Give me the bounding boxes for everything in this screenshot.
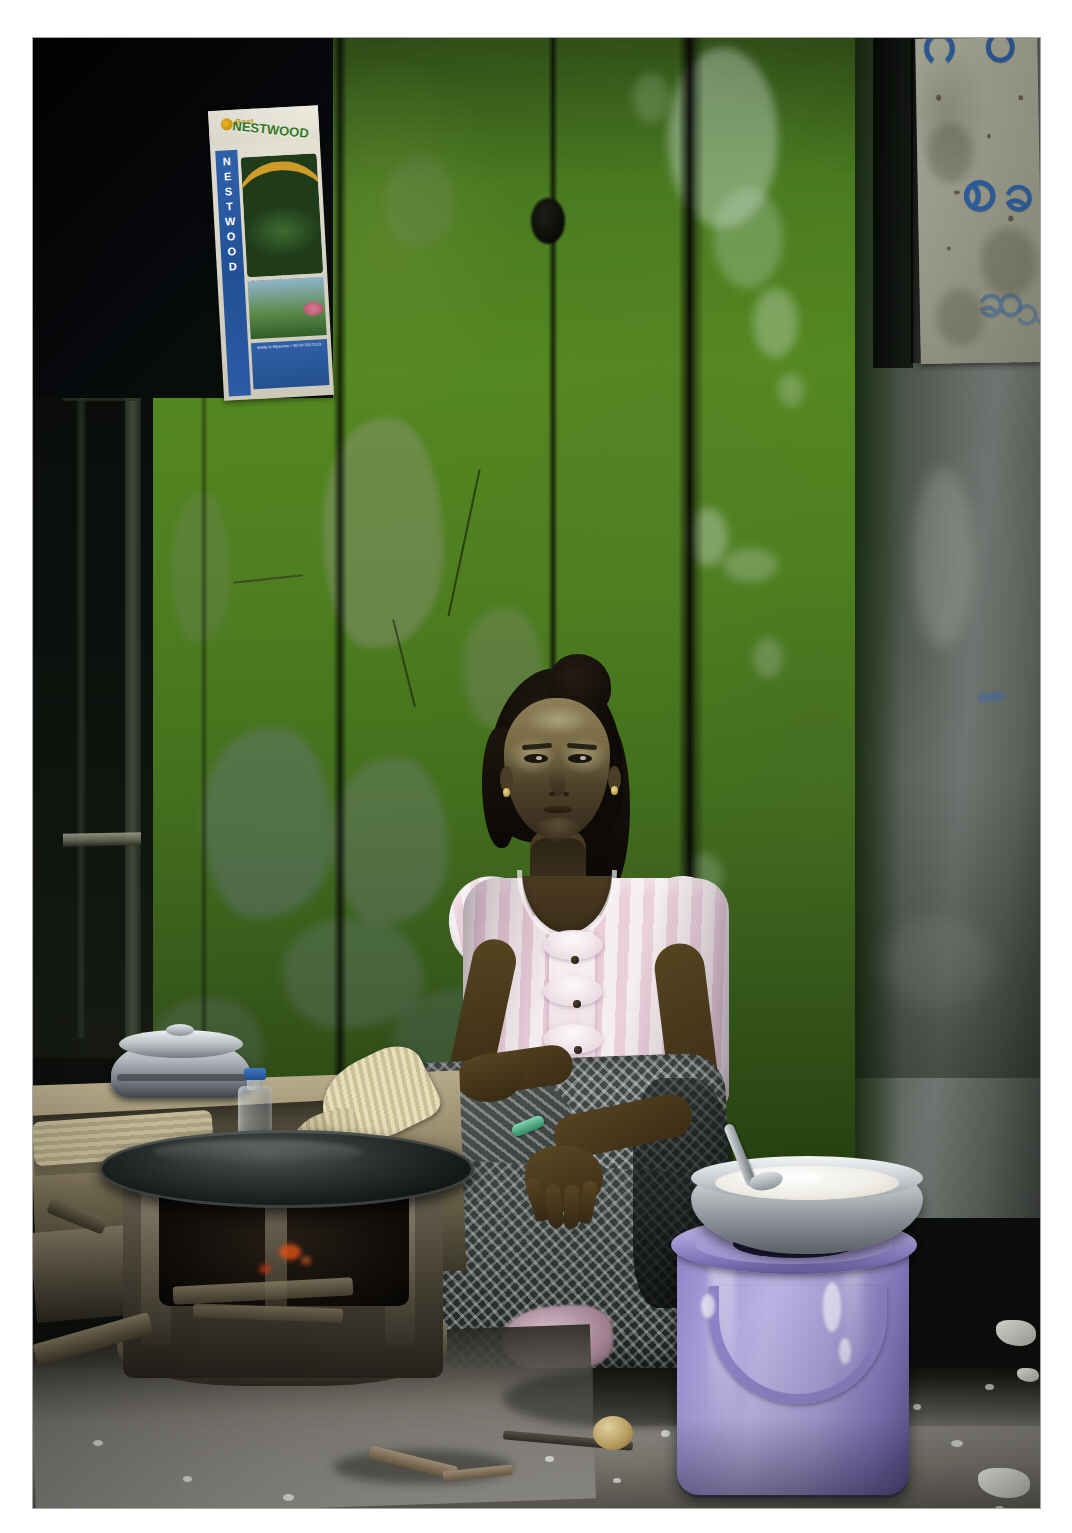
chin	[533, 818, 583, 844]
bucket-drip	[701, 1294, 715, 1318]
gravel-stone	[661, 1430, 670, 1437]
nostril	[549, 792, 555, 796]
finger	[563, 1185, 580, 1229]
nostril	[563, 792, 569, 796]
mouth	[544, 806, 572, 813]
gravel-stone	[613, 1478, 621, 1483]
earring-right	[611, 786, 618, 795]
bottle-cap	[244, 1068, 266, 1080]
onion	[593, 1416, 633, 1450]
gravel-stone	[951, 1440, 963, 1447]
griddle-highlight	[153, 1140, 363, 1164]
gravel-stone	[913, 1404, 921, 1410]
pot-band	[117, 1074, 247, 1081]
blouse-button	[571, 956, 579, 964]
gravel-stone	[545, 1456, 554, 1462]
bucket-drip	[823, 1282, 841, 1332]
ember	[279, 1244, 301, 1260]
gravel-stone	[93, 1440, 103, 1446]
ember	[259, 1264, 271, 1274]
pot-knob	[166, 1024, 194, 1036]
gravel-stone	[183, 1476, 192, 1482]
blouse-button	[574, 1046, 582, 1054]
photo-page: Best NESTWOOD N E S T W O O D Quality pl…	[0, 0, 1072, 1533]
earring-left	[503, 788, 510, 797]
blouse-button	[573, 1000, 581, 1008]
eye-highlight	[536, 756, 542, 760]
gravel-stone	[985, 1384, 994, 1390]
gravel-stone	[283, 1494, 294, 1501]
ember	[301, 1256, 311, 1265]
photograph: Best NESTWOOD N E S T W O O D Quality pl…	[33, 38, 1040, 1508]
eye-highlight	[580, 756, 586, 760]
bucket-drip	[839, 1338, 851, 1364]
gravel-stone	[995, 1506, 1004, 1508]
